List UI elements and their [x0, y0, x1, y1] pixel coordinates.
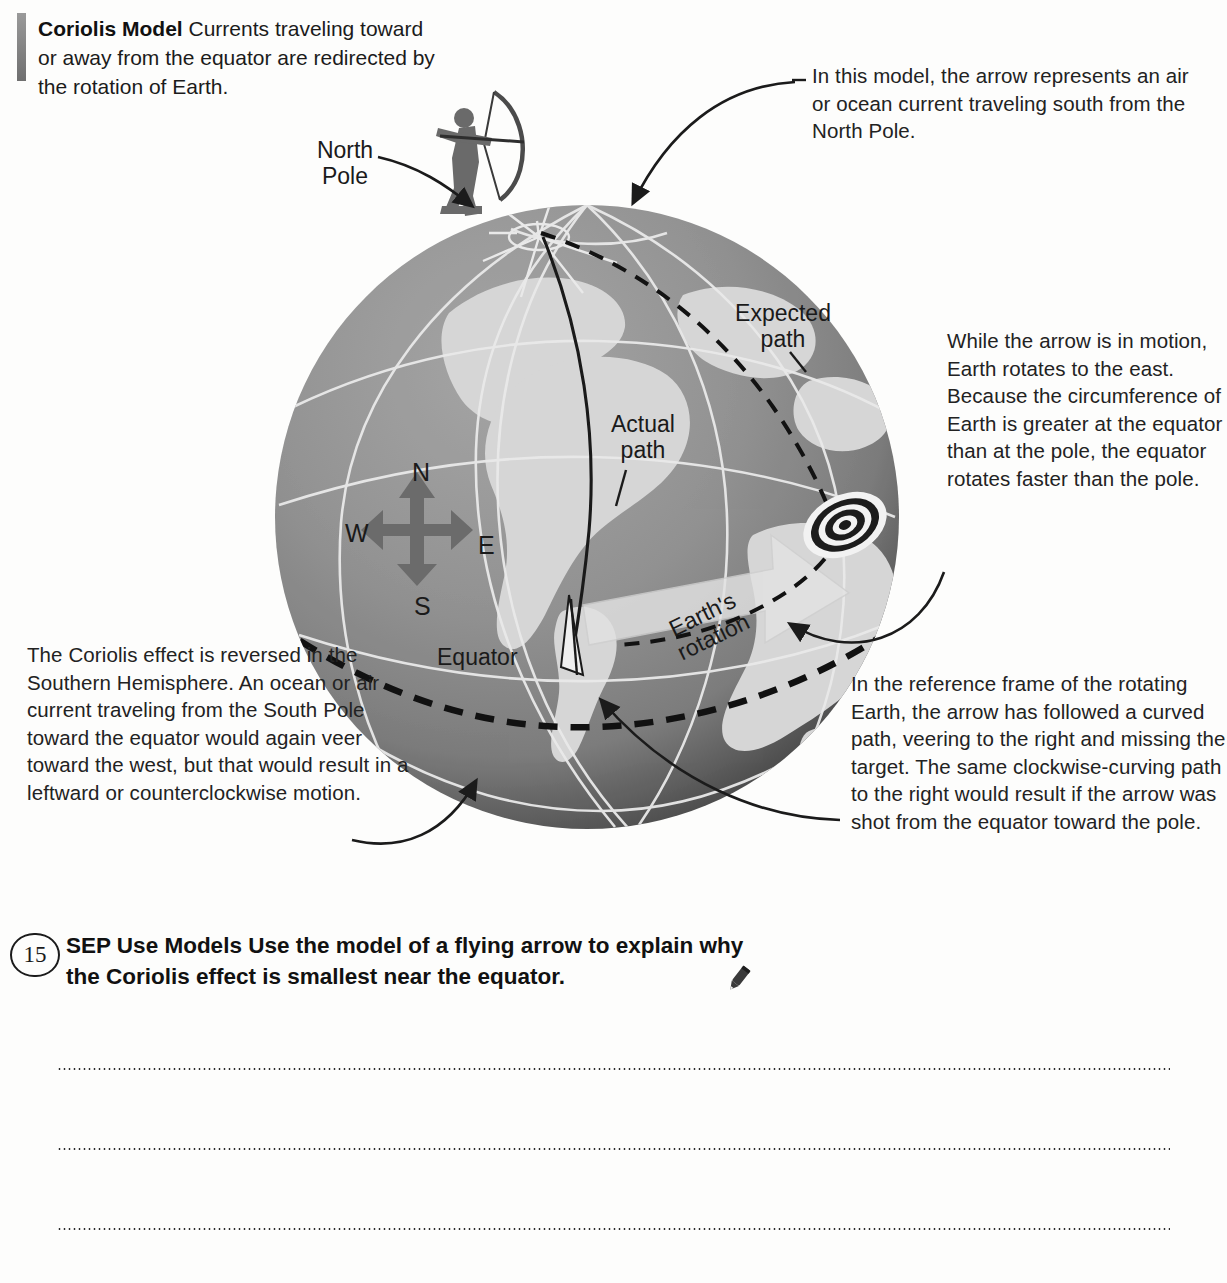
compass-label-north: N [412, 458, 430, 487]
callout-top-right: In this model, the arrow represents an a… [812, 62, 1212, 145]
leader-actual-path [616, 470, 626, 506]
leader-top-right [633, 82, 795, 203]
compass-label-west: W [345, 519, 369, 548]
leader-expected-path [790, 352, 806, 372]
question-number-badge: 15 [10, 933, 60, 977]
label-expected-path: Expected path [719, 300, 847, 352]
label-equator: Equator [437, 644, 518, 670]
label-north-pole: North Pole [299, 137, 391, 189]
compass-label-east: E [478, 531, 495, 560]
question-row: 15 SEP Use Models Use the model of a fly… [10, 930, 810, 1000]
leader-right-mid [790, 572, 944, 643]
compass-label-south: S [414, 592, 431, 621]
leader-north-pole [378, 157, 472, 206]
callout-right-mid: While the arrow is in motion, Earth rota… [947, 327, 1227, 492]
answer-line[interactable] [57, 1148, 1170, 1150]
label-actual-path: Actual path [593, 411, 693, 463]
answer-line[interactable] [57, 1068, 1170, 1070]
callout-bottom-right: In the reference frame of the rotating E… [851, 670, 1227, 835]
leader-bottom-right [601, 700, 840, 820]
answer-line[interactable] [57, 1228, 1170, 1230]
question-text: SEP Use Models Use the model of a flying… [66, 930, 766, 992]
question-label: SEP Use Models [66, 933, 242, 958]
pencil-icon [722, 963, 754, 999]
callout-bottom-left: The Coriolis effect is reversed in the S… [27, 641, 427, 806]
